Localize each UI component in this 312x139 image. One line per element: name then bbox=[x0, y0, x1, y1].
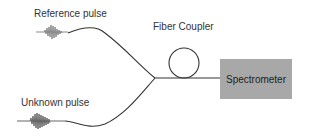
unknown-pulse-waveform-icon bbox=[17, 113, 65, 129]
spectrometer-box: Spectrometer bbox=[220, 59, 292, 99]
unknown-pulse-label: Unknown pulse bbox=[21, 97, 89, 108]
fiber-coupler-label: Fiber Coupler bbox=[153, 21, 214, 32]
spectrometer-label: Spectrometer bbox=[226, 74, 286, 85]
reference-pulse-label: Reference pulse bbox=[34, 8, 107, 19]
fiber-loop-icon bbox=[169, 48, 199, 78]
reference-fiber-line bbox=[68, 28, 155, 78]
reference-pulse-waveform-icon bbox=[36, 25, 68, 39]
